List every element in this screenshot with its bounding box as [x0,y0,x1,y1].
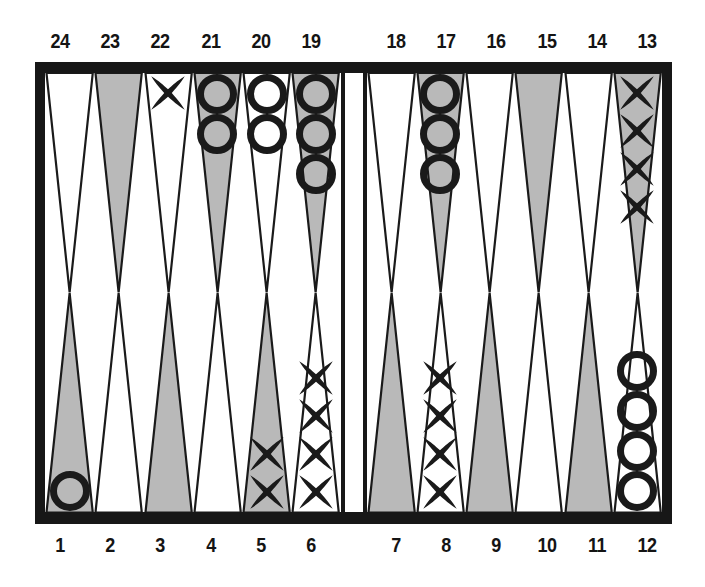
point-column [291,73,340,512]
point-label-21: 21 [188,26,233,58]
point-label-14: 14 [574,26,619,58]
checker-o[interactable] [617,471,657,511]
point-6[interactable] [291,293,340,513]
checker-stack-point-21[interactable] [193,74,242,154]
point-11[interactable] [564,293,613,513]
checker-x[interactable] [419,435,461,473]
point-14[interactable] [564,73,613,293]
checker-o[interactable] [247,74,287,114]
point-label-15: 15 [524,26,569,58]
point-label-23: 23 [88,26,133,58]
point-10[interactable] [514,293,563,513]
point-label-2: 2 [88,530,133,562]
checker-o[interactable] [50,471,90,511]
point-label-13: 13 [624,26,669,58]
point-2[interactable] [94,293,143,513]
checker-x[interactable] [616,74,658,112]
point-column [144,73,193,512]
checker-stack-point-20[interactable] [242,74,291,154]
point-13[interactable] [613,73,662,293]
bottom-right-label-group: 7 8 9 10 11 12 [371,530,672,562]
checker-x[interactable] [295,397,337,435]
point-12[interactable] [613,293,662,513]
point-4[interactable] [193,293,242,513]
checker-x[interactable] [246,435,288,473]
point-column [242,73,291,512]
checker-stack-point-22[interactable] [144,74,193,112]
checker-x[interactable] [246,473,288,511]
checker-o[interactable] [617,391,657,431]
point-label-3: 3 [138,530,183,562]
top-left-label-group: 24 23 22 21 20 19 [35,26,336,58]
point-5[interactable] [242,293,291,513]
checker-stack-point-5[interactable] [242,435,291,511]
checker-stack-point-8[interactable] [416,359,465,511]
point-column [367,73,416,512]
point-label-22: 22 [138,26,183,58]
checker-stack-point-12[interactable] [613,351,662,511]
checker-o[interactable] [197,114,237,154]
point-label-1: 1 [38,530,83,562]
point-label-8: 8 [424,530,469,562]
checker-o[interactable] [420,154,460,194]
point-8[interactable] [416,293,465,513]
checker-o[interactable] [247,114,287,154]
checker-stack-point-13[interactable] [613,74,662,226]
point-column [416,73,465,512]
point-column [45,73,94,512]
checker-o[interactable] [296,154,336,194]
point-label-18: 18 [374,26,419,58]
bottom-point-labels: 1 2 3 4 5 6 7 8 9 10 11 12 [35,530,672,562]
checker-o[interactable] [296,74,336,114]
checker-x[interactable] [616,188,658,226]
checker-x[interactable] [419,473,461,511]
checker-x[interactable] [419,359,461,397]
bottom-left-label-group: 1 2 3 4 5 6 [35,530,336,562]
checker-o[interactable] [296,114,336,154]
point-19[interactable] [291,73,340,293]
point-column [465,73,514,512]
top-point-labels: 24 23 22 21 20 19 18 17 16 15 14 13 [35,26,672,58]
board-half-right [367,73,663,512]
checker-x[interactable] [295,435,337,473]
backgammon-board-figure: 24 23 22 21 20 19 18 17 16 15 14 13 1 2 … [0,0,705,587]
checker-o[interactable] [420,74,460,114]
checker-o[interactable] [197,74,237,114]
point-column [613,73,662,512]
checker-stack-point-6[interactable] [291,359,340,511]
point-label-11: 11 [574,530,619,562]
point-label-6: 6 [288,530,333,562]
point-16[interactable] [465,73,514,293]
point-15[interactable] [514,73,563,293]
checker-x[interactable] [419,397,461,435]
point-3[interactable] [144,293,193,513]
point-20[interactable] [242,73,291,293]
point-9[interactable] [465,293,514,513]
point-18[interactable] [367,73,416,293]
point-1[interactable] [45,293,94,513]
point-23[interactable] [94,73,143,293]
checker-x[interactable] [616,150,658,188]
checker-stack-point-19[interactable] [291,74,340,194]
point-column [193,73,242,512]
checker-o[interactable] [420,114,460,154]
point-7[interactable] [367,293,416,513]
point-22[interactable] [144,73,193,293]
checker-o[interactable] [617,351,657,391]
point-label-16: 16 [474,26,519,58]
point-21[interactable] [193,73,242,293]
point-column [94,73,143,512]
checker-x[interactable] [616,112,658,150]
point-24[interactable] [45,73,94,293]
point-label-19: 19 [288,26,333,58]
point-label-24: 24 [38,26,83,58]
checker-x[interactable] [147,74,189,112]
checker-stack-point-1[interactable] [45,471,94,511]
point-17[interactable] [416,73,465,293]
checker-x[interactable] [295,359,337,397]
checker-o[interactable] [617,431,657,471]
checker-x[interactable] [295,473,337,511]
point-label-10: 10 [524,530,569,562]
checker-stack-point-17[interactable] [416,74,465,194]
center-bar[interactable] [341,73,367,512]
